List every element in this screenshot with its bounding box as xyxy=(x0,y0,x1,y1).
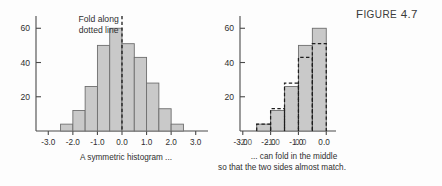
histogram-bar xyxy=(171,124,183,131)
symmetric-histogram-chart: 204060-3.0-2.0-1.00.01.02.03.0Fold along… xyxy=(0,0,215,186)
x-tick-label: -1.0 xyxy=(90,138,105,147)
x-tick-label: -3.0 xyxy=(41,138,56,147)
right-panel-caption-line2: so that the two sides almost match. xyxy=(218,163,346,172)
bar-group-solid xyxy=(257,28,327,131)
histogram-bar xyxy=(110,28,122,131)
x-tick-label: 3.0 xyxy=(190,138,202,147)
histogram-bar xyxy=(147,83,159,131)
x-tick-label: 0.0 xyxy=(318,138,330,147)
histogram-bar xyxy=(271,110,285,131)
y-tick-label: 60 xyxy=(20,23,30,33)
x-tick-label: 1.0 xyxy=(141,138,153,147)
x-tick-label: 2.0 xyxy=(165,138,177,147)
figure-label-rest: IGURE xyxy=(363,9,397,20)
y-tick-label: 20 xyxy=(224,92,234,102)
x-tick-label-overprint: 0.0 xyxy=(295,138,307,147)
histogram-bar xyxy=(285,86,299,131)
histogram-bar xyxy=(257,124,271,131)
histogram-bar xyxy=(298,45,312,131)
figure-number-value: 4.7 xyxy=(401,8,418,20)
figure-caption-label: FIGURE 4.7 xyxy=(356,8,418,20)
histogram-bar xyxy=(73,110,85,131)
histogram-bar xyxy=(159,109,171,131)
histogram-bar xyxy=(122,44,134,131)
x-tick-label: -2.0 xyxy=(66,138,81,147)
fold-annotation-line1: Fold along xyxy=(79,14,119,24)
histogram-bar xyxy=(61,124,73,131)
x-tick-label-overprint: -2.0 xyxy=(238,138,253,147)
histogram-bar xyxy=(97,45,109,131)
y-tick-label: 60 xyxy=(224,23,234,33)
x-tick-label-overprint: -1.0 xyxy=(266,138,281,147)
left-panel-caption: A symmetric histogram ... xyxy=(80,153,172,162)
right-panel-caption-line1: ... can fold in the middle xyxy=(251,152,338,161)
x-tick-label: 0.0 xyxy=(116,138,128,147)
fold-annotation-line2: dotted line xyxy=(79,25,119,35)
folded-histogram-chart: 204060-3.0-2.0-2.0-1.0-1.00.00.0... can … xyxy=(213,0,378,186)
histogram-bar xyxy=(85,86,97,131)
y-tick-label: 20 xyxy=(20,92,30,102)
y-tick-label: 40 xyxy=(20,58,30,68)
y-tick-label: 40 xyxy=(224,58,234,68)
histogram-bar xyxy=(134,57,146,131)
figure-root: 204060-3.0-2.0-1.00.01.02.03.0Fold along… xyxy=(0,0,442,186)
